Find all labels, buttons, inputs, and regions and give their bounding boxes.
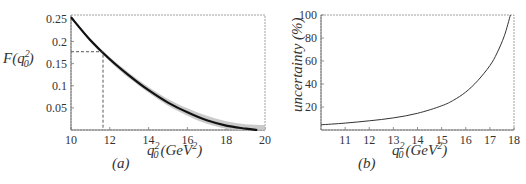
y-tick-label: 0.1 [52,79,67,93]
x-tick-label: 16 [460,133,472,147]
plot-b-caption: (b) [358,155,376,172]
plot-a-frame [71,15,265,130]
plot-a-y-ticks: 0.050.10.150.20.25 [46,12,74,114]
y-tick-label: 80 [305,31,317,45]
y-tick-label: 20 [305,100,317,114]
figure: 0.050.10.150.20.25 101214161820 F(q20) q… [0,0,526,184]
x-tick-label: 11 [339,133,351,147]
x-tick-label: 10 [65,133,77,147]
y-tick-label: 0.15 [46,57,67,71]
plot-a-x-label: q20(GeV2) [147,140,202,160]
x-tick-label: 12 [363,133,375,147]
x-tick-label: 12 [104,133,116,147]
y-tick-label: 0.05 [46,101,67,115]
x-tick-label: 18 [508,133,520,147]
plot-b-x-label: q20(GeV2) [392,140,447,160]
y-tick-label: 0.2 [52,35,67,49]
plot-a-uncertainty-band [71,16,265,130]
plot-b-y-label: uncertainty (%) [289,17,306,112]
x-tick-label: 17 [484,133,496,147]
plot-a: 0.050.10.150.20.25 101214161820 F(q20) q… [2,12,271,172]
plot-a-dashed-crosshair [71,52,103,130]
plot-b-uncertainty-curve [321,15,510,125]
x-tick-label: 20 [259,133,271,147]
plot-a-central-curve [71,17,257,130]
y-tick-label: 0.25 [46,12,67,26]
y-tick-label: 60 [305,54,317,68]
y-tick-label: 40 [305,77,317,91]
plot-a-caption: (a) [112,155,130,172]
plot-b: 20406080100 1112131415161718 uncertainty… [289,8,520,172]
plot-a-y-label: F(q20) [2,48,34,69]
x-tick-label: 18 [220,133,232,147]
